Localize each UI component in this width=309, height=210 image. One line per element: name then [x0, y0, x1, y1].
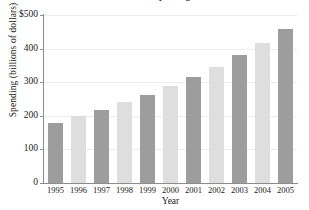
- bar: [94, 110, 109, 183]
- plot-area: [44, 15, 297, 183]
- bar: [117, 102, 132, 183]
- bar: [163, 86, 178, 183]
- y-axis-tick: [40, 183, 44, 184]
- bar: [278, 29, 293, 183]
- bar: [232, 55, 247, 183]
- bar: [186, 77, 201, 183]
- y-axis-tick-label: 0: [0, 178, 38, 188]
- y-axis-tick-label: $500: [0, 10, 38, 20]
- x-axis-line: [43, 183, 298, 184]
- y-axis-tick-label: 300: [0, 77, 38, 87]
- chart-title: National Spending: [0, 0, 309, 1]
- bar-series: [44, 15, 297, 183]
- y-axis-tick-label: 200: [0, 111, 38, 121]
- x-axis-title: Year: [44, 196, 297, 206]
- bar: [209, 67, 224, 183]
- bar: [48, 123, 63, 183]
- y-axis-tick-label: 400: [0, 44, 38, 54]
- x-axis-tick-label: 2005: [266, 186, 306, 195]
- bar: [71, 116, 86, 183]
- bar: [140, 95, 155, 183]
- y-axis-tick-label: 100: [0, 144, 38, 154]
- bar-chart: National Spending Spending (billions of …: [0, 0, 309, 210]
- bar: [255, 43, 270, 183]
